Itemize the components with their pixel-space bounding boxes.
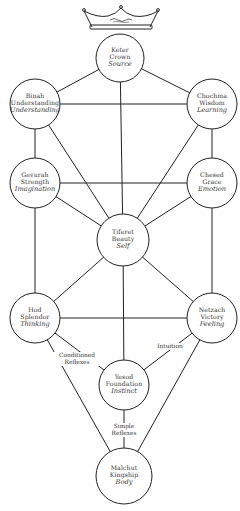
sefirah-hod: HodSplendorThinking xyxy=(10,293,60,343)
sefirah-tiferet: TiferetBeautySelf xyxy=(97,214,149,266)
sefirah-psych-name: Learning xyxy=(197,107,227,114)
label-line: Reflexes xyxy=(106,430,142,437)
sefirah-psych-name: Self xyxy=(117,243,130,250)
sefirah-keter: KeterCrownSource xyxy=(96,34,144,82)
tree-of-life-diagram: KeterCrownSourceBinahUnderstandingUnders… xyxy=(0,0,240,511)
sefirah-chochma: ChochmaWisdomLearning xyxy=(187,79,237,129)
sefirah-psych-name: Emotion xyxy=(198,186,226,193)
sefirah-psych-name: Feeling xyxy=(200,321,225,328)
sefirah-yesod: YesodFoundationInstinct xyxy=(99,360,149,410)
sefirah-psych-name: Understanding xyxy=(10,107,60,114)
sefirah-malchut: MalchutKingshipBody xyxy=(96,448,152,504)
sefirah-chesed: ChesedGraceEmotion xyxy=(187,158,237,208)
sefirah-gevurah: GevurahStrengthImagination xyxy=(10,158,60,208)
sefirah-binah: BinahUnderstandingUnderstanding xyxy=(10,79,60,129)
label-line: Reflexes xyxy=(54,359,100,366)
sefirah-psych-name: Thinking xyxy=(20,321,50,328)
sefirah-netzach: NetzachVictoryFeeling xyxy=(187,293,237,343)
label-line: Conditioned xyxy=(54,352,100,359)
path-keter-tiferet xyxy=(120,58,123,240)
edge-label-simple-reflexes: Simple Reflexes xyxy=(106,423,142,437)
sefirah-psych-name: Instinct xyxy=(111,388,137,395)
sefirah-psych-name: Source xyxy=(108,61,131,68)
sefirah-psych-name: Body xyxy=(116,479,133,486)
sefirah-psych-name: Imagination xyxy=(15,186,55,193)
label-line: Simple xyxy=(106,423,142,430)
edge-label-conditioned-reflexes: Conditioned Reflexes xyxy=(54,352,100,366)
edge-label-intuition: Intuition xyxy=(151,343,189,350)
label-line: Intuition xyxy=(151,343,189,350)
